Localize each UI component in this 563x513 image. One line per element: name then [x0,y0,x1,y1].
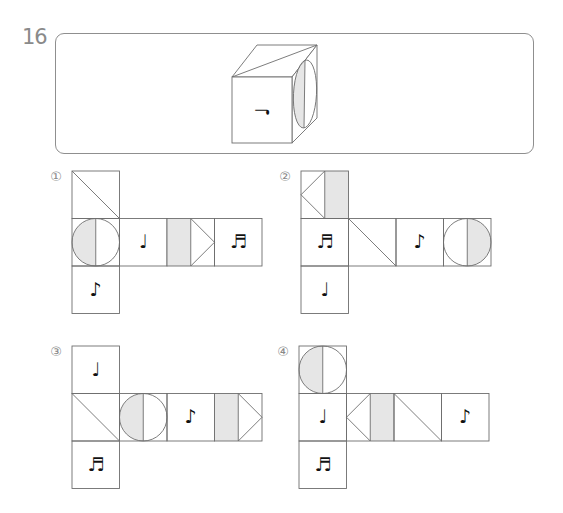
net-face-circle-left-shaded [120,394,168,442]
music-note-icon: ♩ [139,230,148,252]
music-note-icon: ♩ [318,405,327,427]
net-face-note: ♬ [299,441,347,489]
option-2-label[interactable]: ② [279,171,291,183]
cube-figure [232,45,318,143]
net-face-note: ♪ [442,394,490,442]
music-note-icon: ♪ [185,405,197,427]
net-face-note: ♩ [301,266,349,314]
answer-options: ♩♬♪♬♪♩♩♪♬♩♪♬ [72,171,491,489]
net-face-shaded-left-triangle-right [167,219,215,267]
net-face-note: ♩ [120,219,168,267]
net-face-triangle-left-shaded-right [347,394,395,442]
music-note-icon: ♩ [320,278,329,300]
net-face-note: ♪ [167,394,215,442]
net-face-note: ♩ [72,346,120,394]
net-face-triangle-left-shaded-right [301,171,349,219]
net-face-note: ♩ [299,394,347,442]
music-note-icon: ♬ [230,230,247,252]
music-note-icon: ♪ [459,405,471,427]
music-note-icon: ♬ [87,453,104,475]
net-face-note: ♬ [72,441,120,489]
music-note-icon: ♪ [90,278,102,300]
music-note-icon: ♬ [314,453,331,475]
music-note-icon: ♪ [414,230,426,252]
net-face-shaded-left-triangle-right [215,394,263,442]
net-face-diagonal-tl-br [72,171,120,219]
net-face-diagonal-tl-br [394,394,442,442]
net-face-circle-right-shaded [444,219,492,267]
net-face-diagonal-tl-br [72,394,120,442]
net-face-note: ♪ [396,219,444,267]
net-face-note: ♬ [301,219,349,267]
net-face-note: ♬ [215,219,263,267]
option-1-net[interactable]: ♩♬♪ [72,171,262,314]
option-4-net[interactable]: ♩♪♬ [299,346,489,489]
option-2-net[interactable]: ♬♪♩ [301,171,491,314]
option-1-label[interactable]: ① [50,171,62,183]
net-face-circle-left-shaded [72,219,120,267]
music-note-icon: ♩ [91,358,100,380]
music-note-icon: ♬ [316,230,333,252]
diagram-canvas: ♩ ♩♬♪♬♪♩♩♪♬♩♪♬ [0,0,563,513]
option-3-label[interactable]: ③ [50,346,62,358]
net-face-circle-left-shaded [299,346,347,394]
option-4-label[interactable]: ④ [277,346,289,358]
net-face-note: ♪ [72,266,120,314]
net-face-diagonal-tl-br [349,219,397,267]
option-3-net[interactable]: ♩♪♬ [72,346,262,489]
cube-front-note: ♩ [251,108,273,117]
